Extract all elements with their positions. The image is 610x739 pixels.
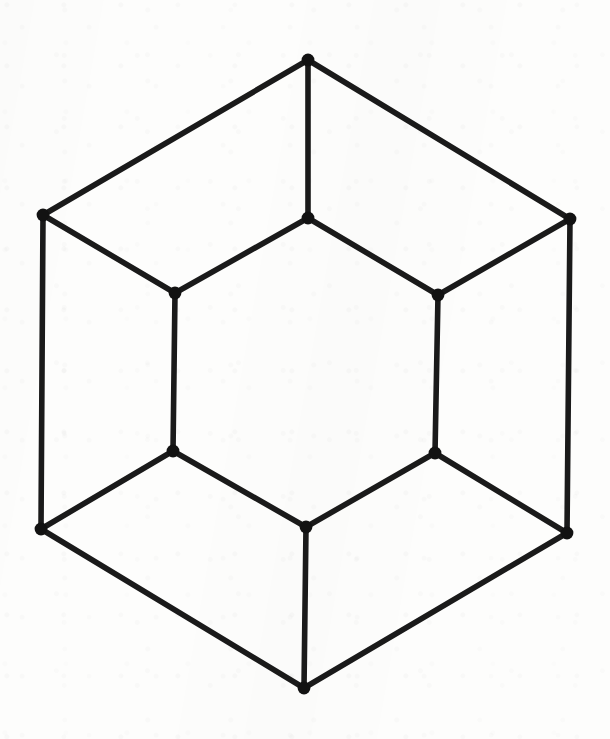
graph-vertex-inner-bottom: [300, 521, 313, 534]
graph-edge-outer-top__outer-upper-right: [308, 60, 570, 219]
graph-edge-outer-upper-left__outer-top: [43, 60, 308, 215]
graph-edge-inner-top__inner-upper-right: [308, 218, 438, 295]
graph-vertex-inner-upper-right: [432, 289, 445, 302]
graph-edge-outer-bottom__inner-bottom: [304, 527, 306, 688]
graph-vertex-inner-lower-right: [429, 447, 442, 460]
graph-edge-outer-upper-left__inner-upper-left: [43, 215, 175, 293]
graph-edge-outer-lower-left__outer-upper-left: [41, 215, 43, 529]
graph-vertex-outer-bottom: [298, 682, 311, 695]
graph-vertex-outer-upper-right: [564, 213, 577, 226]
graph-vertex-outer-top: [302, 54, 315, 67]
graph-vertex-inner-top: [302, 212, 315, 225]
graph-vertex-inner-upper-left: [169, 287, 182, 300]
graph-figure: [0, 0, 610, 739]
graph-edge-outer-upper-right__inner-upper-right: [438, 219, 570, 295]
graph-edge-outer-lower-left__inner-lower-left: [41, 451, 173, 529]
graph-vertex-outer-upper-left: [37, 209, 50, 222]
graph-edge-inner-upper-right__inner-lower-right: [435, 295, 438, 453]
edge-layer: [41, 60, 570, 688]
graph-edge-outer-bottom__outer-lower-left: [41, 529, 304, 688]
graph-vertex-inner-lower-left: [167, 445, 180, 458]
graph-edge-outer-lower-right__outer-bottom: [304, 533, 567, 688]
graph-edge-inner-lower-left__inner-upper-left: [173, 293, 175, 451]
graph-edge-outer-lower-right__inner-lower-right: [435, 453, 567, 533]
graph-vertex-outer-lower-right: [561, 527, 574, 540]
graph-edge-outer-upper-right__outer-lower-right: [567, 219, 570, 533]
graph-edge-inner-bottom__inner-lower-left: [173, 451, 306, 527]
graph-drawing: [0, 0, 610, 739]
graph-edge-inner-upper-left__inner-top: [175, 218, 308, 293]
graph-edge-inner-lower-right__inner-bottom: [306, 453, 435, 527]
graph-vertex-outer-lower-left: [35, 523, 48, 536]
